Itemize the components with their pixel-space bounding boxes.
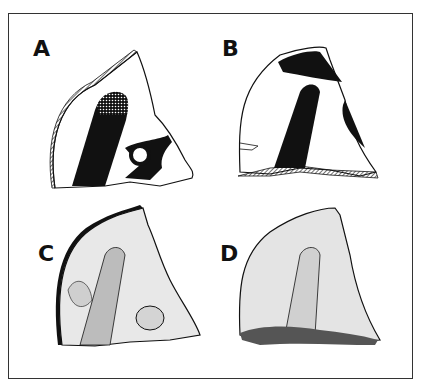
sherd-b (238, 47, 378, 178)
figure-drawings (0, 0, 422, 391)
sherd-a (50, 50, 193, 188)
sherd-c (56, 205, 200, 346)
sherd-d (239, 208, 380, 345)
